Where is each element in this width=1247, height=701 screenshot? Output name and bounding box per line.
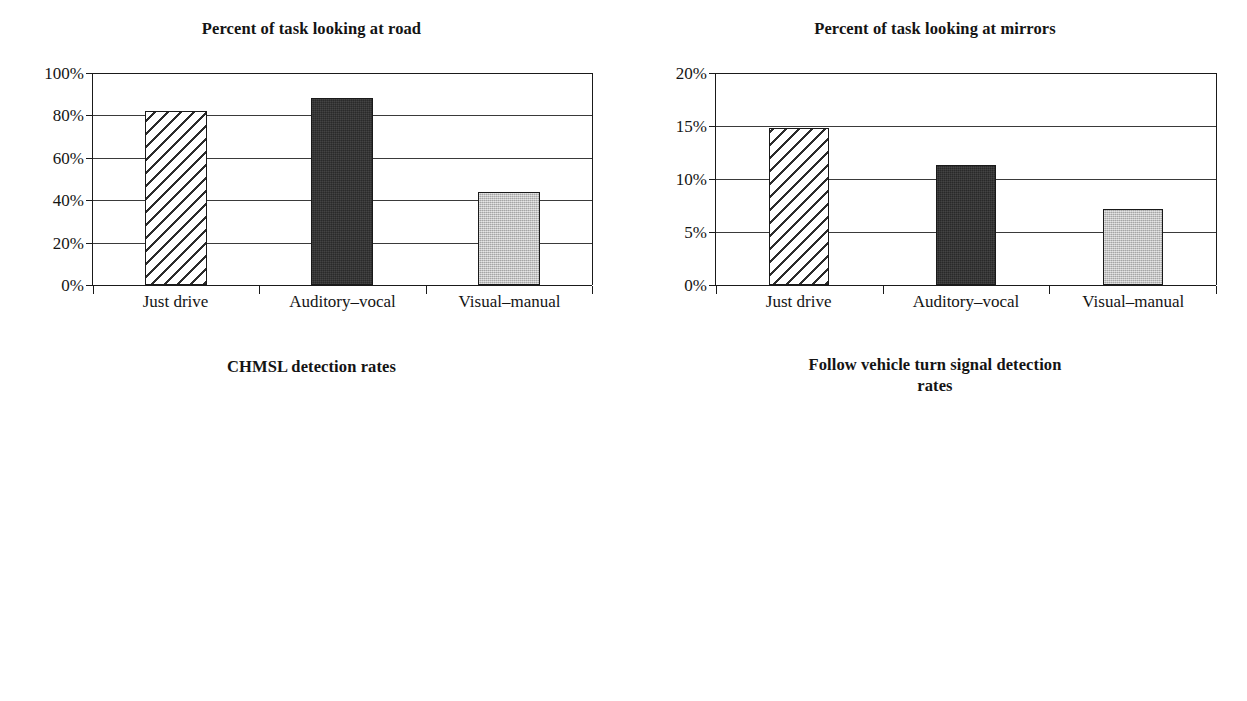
ytick-mark — [86, 285, 93, 286]
panel-title: Percent of task looking at mirrors — [623, 18, 1247, 39]
bar-slot-auditory-vocal — [259, 73, 425, 285]
ytick-mark — [709, 285, 716, 286]
xlabel-just-drive: Just drive — [715, 292, 882, 312]
panel-title-line-2: rates — [623, 375, 1247, 396]
ytick-label-100: 100% — [44, 64, 84, 84]
bar-auditory-vocal[interactable] — [311, 98, 373, 285]
bar-visual-manual[interactable] — [478, 192, 540, 285]
panel-title: Percent of task looking at road — [0, 18, 623, 39]
panel-title: Follow vehicle turn signal detection rat… — [623, 354, 1247, 396]
ytick-label-0: 0% — [684, 276, 707, 296]
bar-slot-visual-manual — [426, 73, 592, 285]
bar-chart-figure: Percent of task looking at road 100% 80%… — [0, 0, 1247, 701]
panel-title-line-1: Follow vehicle turn signal detection — [623, 354, 1247, 375]
bar-slot-just-drive — [93, 73, 259, 285]
chart-panel-chmsl-detection-rates: CHMSL detection rates 100% 80% 60% 40% 2… — [0, 340, 623, 701]
plot-area: 20% 15% 10% 5% 0% — [715, 73, 1217, 285]
x-axis-labels: Just drive Auditory–vocal Visual–manual — [715, 292, 1217, 312]
panel-title: CHMSL detection rates — [0, 356, 623, 377]
bar-slot-auditory-vocal — [883, 73, 1050, 285]
axis-baseline-0: 0% — [93, 285, 592, 286]
ytick-mark — [709, 232, 716, 233]
ytick-label-20: 20% — [53, 234, 84, 254]
ytick-mark — [86, 158, 93, 159]
xlabel-visual-manual: Visual–manual — [1050, 292, 1217, 312]
ytick-mark — [709, 179, 716, 180]
ytick-label-10: 10% — [676, 170, 707, 190]
ytick-mark — [86, 243, 93, 244]
xlabel-visual-manual: Visual–manual — [426, 292, 593, 312]
ytick-label-15: 15% — [676, 117, 707, 137]
bar-auditory-vocal[interactable] — [936, 165, 996, 285]
bar-group — [716, 73, 1216, 285]
ytick-label-20: 20% — [676, 64, 707, 84]
xlabel-just-drive: Just drive — [92, 292, 259, 312]
plot-frame: 100% 80% 60% 40% 20% 0% — [92, 73, 593, 285]
bar-group — [93, 73, 592, 285]
xlabel-auditory-vocal: Auditory–vocal — [259, 292, 426, 312]
ytick-mark — [86, 115, 93, 116]
ytick-label-80: 80% — [53, 106, 84, 126]
ytick-label-5: 5% — [684, 223, 707, 243]
bar-visual-manual[interactable] — [1103, 209, 1163, 285]
chart-panel-percent-task-looking-at-road: Percent of task looking at road 100% 80%… — [0, 0, 623, 340]
plot-frame: 20% 15% 10% 5% 0% — [715, 73, 1217, 285]
xlabel-auditory-vocal: Auditory–vocal — [882, 292, 1049, 312]
ytick-mark — [86, 73, 93, 74]
ytick-mark — [709, 73, 716, 74]
ytick-mark — [709, 126, 716, 127]
bar-just-drive[interactable] — [769, 128, 829, 285]
ytick-mark — [86, 200, 93, 201]
x-axis-labels: Just drive Auditory–vocal Visual–manual — [92, 292, 593, 312]
ytick-label-40: 40% — [53, 191, 84, 211]
axis-baseline-0: 0% — [716, 285, 1216, 286]
ytick-label-60: 60% — [53, 149, 84, 169]
plot-area: 100% 80% 60% 40% 20% 0% — [92, 73, 593, 285]
chart-panel-follow-vehicle-turn-signal-detection-rates: Follow vehicle turn signal detection rat… — [623, 340, 1247, 701]
bar-just-drive[interactable] — [145, 111, 207, 285]
bar-slot-just-drive — [716, 73, 883, 285]
ytick-label-0: 0% — [61, 276, 84, 296]
bar-slot-visual-manual — [1049, 73, 1216, 285]
chart-panel-percent-task-looking-at-mirrors: Percent of task looking at mirrors 20% 1… — [623, 0, 1247, 340]
